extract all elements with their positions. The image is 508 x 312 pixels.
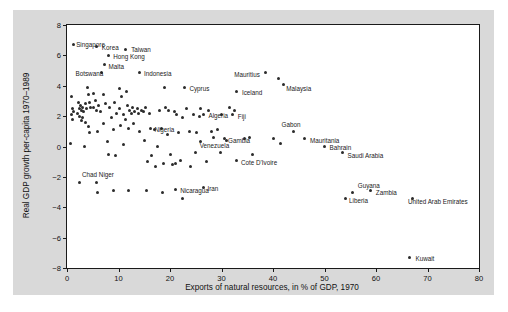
y-axis-tick-label: −8 — [52, 264, 61, 273]
y-axis-tick-label: 0 — [57, 142, 61, 151]
y-axis-tick — [63, 207, 67, 208]
data-point-hong-kong — [107, 54, 110, 57]
data-point — [169, 153, 172, 156]
x-axis-tick — [479, 268, 480, 272]
data-point — [122, 143, 125, 146]
y-axis-tick — [63, 25, 67, 26]
data-point-taiwan — [124, 48, 127, 51]
data-point-fiji — [231, 113, 234, 116]
y-axis-tick-label: −6 — [52, 233, 61, 242]
data-point-label: Guyana — [358, 182, 380, 189]
data-point-label: Gambia — [228, 137, 250, 144]
data-point — [99, 110, 102, 113]
data-point — [137, 112, 140, 115]
data-point-label: Nigeria — [154, 126, 174, 133]
data-point — [148, 112, 151, 115]
data-point-singapore — [72, 43, 75, 46]
data-point — [177, 131, 180, 134]
x-axis-tick-label: 10 — [114, 274, 122, 283]
data-point-gabon — [292, 130, 295, 133]
data-point-algeria — [202, 113, 205, 116]
y-axis-title: Real GDP growth per-capita 1970–1989 — [22, 24, 34, 267]
y-axis-tick — [63, 177, 67, 178]
data-point — [94, 99, 97, 102]
data-point — [161, 191, 164, 194]
x-axis-tick — [170, 268, 171, 272]
data-point — [228, 106, 231, 109]
data-point — [131, 106, 134, 109]
data-point — [122, 113, 125, 116]
data-point — [86, 86, 89, 89]
data-point — [71, 118, 74, 121]
data-point — [154, 165, 157, 168]
data-point-label: Saudi Arabia — [348, 152, 384, 159]
data-point — [133, 110, 136, 113]
data-point — [88, 131, 91, 134]
data-point — [192, 113, 195, 116]
data-point-label: Singapore — [76, 41, 105, 48]
data-point-label: United Arab Emirates — [408, 198, 468, 205]
data-point-label: Korea — [102, 44, 119, 51]
x-axis-tick — [222, 268, 223, 272]
data-point — [181, 197, 184, 200]
data-point — [150, 154, 153, 157]
data-point — [92, 92, 95, 95]
data-point — [107, 153, 110, 156]
data-point — [144, 106, 147, 109]
data-point — [83, 145, 86, 148]
data-point — [195, 131, 198, 134]
scatter-plot-figure: SingaporeKoreaTaiwanHong KongMaltaBotswa… — [0, 0, 508, 312]
data-point-label: Hong Kong — [113, 53, 145, 60]
data-point — [205, 160, 208, 163]
data-point-label: Malta — [109, 63, 124, 70]
data-point — [145, 189, 148, 192]
data-point — [104, 102, 107, 105]
data-point — [85, 107, 88, 110]
x-axis-tick-label: 60 — [372, 274, 380, 283]
data-point — [70, 113, 73, 116]
data-point — [207, 109, 210, 112]
y-axis-tick-label: 6 — [57, 51, 61, 60]
y-axis-tick-label: 4 — [57, 81, 61, 90]
data-point — [87, 93, 90, 96]
data-point — [138, 130, 141, 133]
x-axis-tick-label: 40 — [269, 274, 277, 283]
data-point — [143, 139, 146, 142]
data-point — [162, 162, 165, 165]
data-point — [84, 121, 87, 124]
data-point — [166, 133, 169, 136]
data-point — [92, 106, 95, 109]
data-point-label: Botswana — [76, 70, 104, 77]
data-point-malta — [103, 63, 106, 66]
y-axis-tick-label: −4 — [52, 203, 61, 212]
data-point-label: Algeria — [208, 112, 228, 119]
data-point-label: Iran — [207, 185, 218, 192]
data-point — [277, 77, 280, 80]
plot-panel: SingaporeKoreaTaiwanHong KongMaltaBotswa… — [66, 24, 480, 269]
data-point — [158, 109, 161, 112]
data-point-bahrain — [323, 145, 326, 148]
data-point — [185, 107, 188, 110]
data-point-label: Cote D'Ivoire — [241, 159, 277, 166]
data-point-label: Indonesia — [144, 70, 171, 77]
y-axis-tick-label: 8 — [57, 21, 61, 30]
data-point — [233, 109, 236, 112]
data-point — [130, 112, 133, 115]
x-axis-tick-label: 70 — [423, 274, 431, 283]
data-point — [115, 112, 118, 115]
y-axis-tick-label: −2 — [52, 172, 61, 181]
y-axis-tick — [63, 238, 67, 239]
data-point — [251, 153, 254, 156]
x-axis-tick-label: 20 — [166, 274, 174, 283]
data-point — [126, 104, 129, 107]
data-point-guyana — [351, 191, 354, 194]
data-point — [212, 136, 215, 139]
y-axis-tick — [63, 86, 67, 87]
data-point-zambia — [369, 189, 372, 192]
data-point — [216, 128, 219, 131]
data-point-label: Kuwait — [415, 255, 434, 262]
data-point — [174, 162, 177, 165]
data-point — [181, 116, 184, 119]
data-point — [188, 130, 191, 133]
data-point-label: Niger — [99, 171, 114, 178]
